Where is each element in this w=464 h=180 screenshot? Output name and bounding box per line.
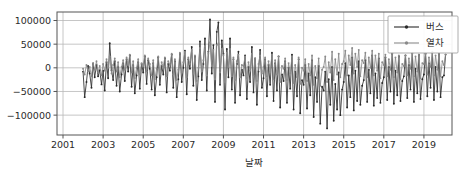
data-point [162, 66, 164, 68]
data-point [323, 66, 325, 68]
data-point [364, 52, 366, 54]
data-point [351, 47, 353, 49]
data-point [91, 87, 93, 89]
data-point [229, 48, 231, 50]
data-point [283, 68, 285, 70]
data-point [206, 90, 208, 92]
data-point [298, 56, 300, 58]
data-point [420, 98, 422, 100]
data-point [343, 81, 345, 83]
x-tick-label: 2019 [412, 139, 436, 150]
data-point [269, 71, 271, 73]
data-point [334, 58, 336, 60]
data-point [227, 66, 229, 68]
data-point [177, 78, 179, 80]
data-point [413, 75, 415, 77]
data-point [226, 52, 228, 54]
data-point [306, 80, 308, 82]
data-point [328, 78, 330, 80]
data-point [204, 38, 206, 40]
data-point [436, 91, 438, 93]
data-point [314, 65, 316, 67]
data-point [326, 127, 328, 129]
data-point [273, 100, 275, 102]
data-point [142, 65, 144, 67]
data-point [374, 55, 376, 57]
data-point [263, 66, 265, 68]
data-point [321, 86, 323, 88]
data-point [166, 75, 168, 77]
data-point [353, 109, 355, 111]
data-point [386, 99, 388, 101]
data-point [109, 42, 111, 44]
data-point [268, 60, 270, 62]
data-point [319, 123, 321, 125]
data-point [274, 59, 276, 61]
data-point [395, 56, 397, 58]
data-point [341, 89, 343, 91]
data-point [231, 75, 233, 77]
data-point [144, 55, 146, 57]
legend-label: 버스 [426, 21, 444, 32]
data-point [333, 120, 335, 122]
data-point [234, 102, 236, 104]
data-point [89, 73, 91, 75]
data-point [338, 72, 340, 74]
data-point [339, 76, 341, 78]
data-point [276, 90, 278, 92]
data-point [384, 54, 386, 56]
data-point [400, 78, 402, 80]
data-point [261, 73, 263, 75]
data-point [157, 56, 159, 58]
data-point [389, 69, 391, 71]
data-point [96, 60, 98, 62]
data-point [344, 50, 346, 52]
legend-label: 열차 [426, 37, 444, 48]
x-axis-title: 날짜 [245, 157, 263, 168]
data-point [151, 89, 153, 91]
data-point [349, 64, 351, 66]
data-point [346, 74, 348, 76]
data-point [224, 81, 226, 83]
data-point [323, 90, 325, 92]
data-point [84, 96, 86, 98]
y-tick-label: 100000 [15, 15, 51, 26]
x-tick-label: 2005 [131, 139, 155, 150]
data-point [239, 76, 241, 78]
data-point [181, 72, 183, 74]
data-point [283, 80, 285, 82]
data-point [396, 72, 398, 74]
data-point [333, 79, 335, 81]
data-point [186, 76, 188, 78]
data-point [308, 63, 310, 65]
data-point [339, 114, 341, 116]
data-point [137, 58, 139, 60]
data-point [109, 56, 111, 58]
data-point [289, 88, 291, 90]
data-point [264, 56, 266, 58]
data-point [253, 74, 255, 76]
data-point [426, 74, 428, 76]
data-point [127, 64, 129, 66]
data-point [278, 56, 280, 58]
data-point [174, 58, 176, 60]
data-point [84, 74, 86, 76]
data-point [224, 109, 226, 111]
data-point [241, 64, 243, 66]
data-point [209, 41, 211, 43]
data-point [341, 63, 343, 65]
data-point [177, 69, 179, 71]
data-point [226, 48, 228, 50]
data-point [321, 69, 323, 71]
chart-legend[interactable]: 버스열차 [388, 16, 458, 53]
data-point [87, 65, 89, 67]
data-point [112, 64, 114, 66]
data-point [221, 39, 223, 41]
data-point [176, 79, 178, 81]
data-point [381, 82, 383, 84]
data-point [279, 81, 281, 83]
legend-swatch-marker [405, 41, 408, 44]
data-point [271, 52, 273, 54]
data-point [363, 79, 365, 81]
data-point [233, 56, 235, 58]
